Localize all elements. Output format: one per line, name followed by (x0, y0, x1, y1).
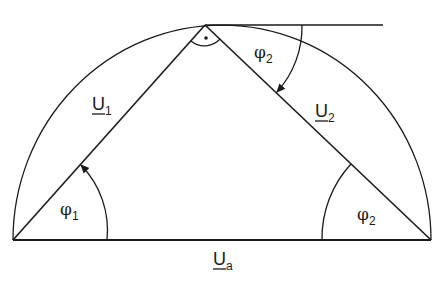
phi2-bottom-angle-arc (322, 164, 351, 240)
label-phi2-top: φ2 (254, 42, 273, 66)
label-u2: U2 (315, 101, 335, 125)
label-u1: U1 (92, 94, 112, 118)
right-angle-arc (191, 39, 220, 46)
right-angle-dot (204, 36, 208, 40)
label-ua: Ua (213, 249, 233, 273)
phi2-top-angle-arc (277, 25, 302, 92)
label-phi1: φ1 (60, 199, 79, 223)
u1-side (13, 25, 205, 240)
phasor-diagram: U1 U2 Ua φ1 φ2 φ2 (0, 0, 441, 285)
u2-side (205, 25, 431, 240)
phi1-angle-arc (81, 165, 107, 240)
label-phi2-bottom: φ2 (357, 204, 376, 228)
